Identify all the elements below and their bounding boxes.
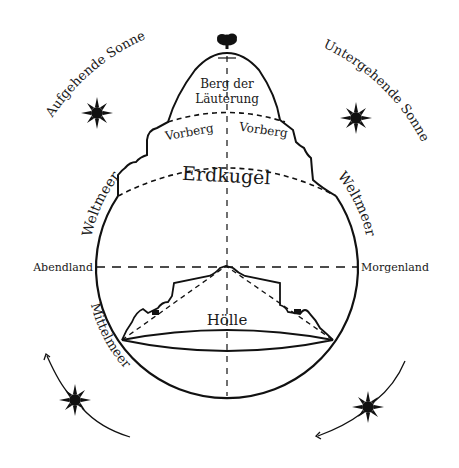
sun-path-left: [47, 356, 130, 437]
purgatory-label-line2: Läuterung: [195, 92, 259, 106]
hell-label: Hölle: [207, 311, 248, 329]
sun-icon: [81, 97, 113, 129]
purgatory-label-line1: Berg der: [200, 77, 254, 91]
cloud-icon: [217, 34, 237, 50]
east-label: Morgenland: [361, 261, 429, 274]
sun-icon: [59, 384, 91, 416]
foothill-right-label: Vorberg: [237, 120, 289, 141]
sun-icon: [340, 102, 372, 134]
rising-sun-label: Aufgehende Sonne: [42, 27, 148, 120]
hell-gate-right: [294, 309, 301, 314]
mediterranean-label: Mittelmeer: [88, 301, 135, 371]
sun-icon: [352, 391, 384, 423]
setting-sun-label: Untergehende Sonne: [321, 36, 432, 144]
ocean-left-label: Weltmeer: [79, 168, 123, 238]
dante-cosmology-diagram: Berg der Läuterung Vorberg Vorberg Erdku…: [0, 0, 459, 468]
hell-gate-left: [152, 310, 159, 315]
sun-path-right: [318, 361, 405, 436]
west-label: Abendland: [32, 261, 93, 274]
earth-label: Erdkugel: [182, 162, 271, 189]
foothill-left-label: Vorberg: [163, 121, 215, 143]
